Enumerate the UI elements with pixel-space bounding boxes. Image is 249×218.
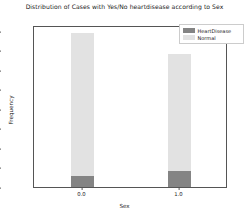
- x-tick-mark: [81, 188, 82, 190]
- legend-item[interactable]: Normal: [183, 34, 241, 41]
- bar-segment-normal[interactable]: [168, 54, 190, 171]
- legend-item[interactable]: HeartDisease: [183, 27, 241, 34]
- plot-area: [33, 26, 227, 188]
- y-axis-label: Frequency: [8, 80, 14, 140]
- x-tick-label: 0.0: [77, 191, 85, 197]
- bar-segment-normal[interactable]: [71, 33, 93, 176]
- legend-label: Normal: [198, 35, 216, 41]
- bar-stack[interactable]: [71, 33, 93, 187]
- bars-layer: [34, 27, 226, 187]
- y-tick-mark: [0, 31, 1, 32]
- legend-label: HeartDisease: [198, 28, 232, 34]
- y-tick-mark: [0, 168, 1, 169]
- bar-segment-heartdisease[interactable]: [168, 171, 190, 187]
- bar-segment-heartdisease[interactable]: [71, 176, 93, 187]
- y-tick-mark: [0, 90, 1, 91]
- legend-swatch: [183, 35, 195, 39]
- y-tick-mark: [0, 129, 1, 130]
- bar-stack[interactable]: [168, 54, 190, 187]
- chart-legend: HeartDiseaseNormal: [179, 24, 244, 44]
- chart-figure: Distribution of Cases with Yes/No heartd…: [0, 0, 249, 218]
- y-tick-mark: [0, 51, 1, 52]
- x-tick-mark: [178, 188, 179, 190]
- y-tick-mark: [0, 70, 1, 71]
- y-tick-mark: [0, 188, 1, 189]
- x-axis-label: Sex: [0, 203, 249, 209]
- x-tick-label: 1.0: [174, 191, 182, 197]
- legend-swatch: [183, 28, 195, 32]
- y-tick-mark: [0, 110, 1, 111]
- y-tick-mark: [0, 149, 1, 150]
- y-axis-ticks: 0200004000060000800001000001200001400001…: [0, 0, 33, 218]
- chart-title: Distribution of Cases with Yes/No heartd…: [0, 3, 249, 10]
